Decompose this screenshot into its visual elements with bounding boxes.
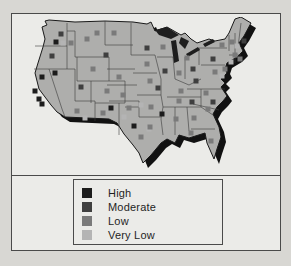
state-marker-low <box>189 131 194 136</box>
legend-label-very-low: Very Low <box>108 230 155 241</box>
state-marker-low <box>209 139 214 144</box>
state-marker-low <box>148 79 153 84</box>
state-marker-very_low <box>235 44 240 49</box>
legend-swatch-low <box>82 216 92 226</box>
state-marker-very_low <box>139 103 144 108</box>
state-marker-very_low <box>83 116 88 121</box>
state-marker-very_low <box>220 74 225 79</box>
state-marker-high <box>132 124 137 129</box>
state-marker-moderate <box>211 57 216 62</box>
state-marker-high <box>40 75 45 80</box>
state-marker-moderate <box>104 53 109 58</box>
legend-swatch-high <box>82 188 92 198</box>
legend-label-low: Low <box>108 216 129 227</box>
legend-section: High Moderate Low Very Low <box>12 176 280 250</box>
state-marker-low <box>206 107 211 112</box>
state-marker-high <box>33 89 38 94</box>
state-marker-low <box>223 67 228 72</box>
state-marker-low <box>213 70 218 75</box>
state-marker-very_low <box>229 60 234 65</box>
state-marker-high <box>109 106 114 111</box>
state-marker-low <box>148 125 153 130</box>
state-marker-low <box>85 37 90 42</box>
state-marker-low <box>91 67 96 72</box>
us-map-outline <box>35 17 251 163</box>
state-marker-low <box>69 41 74 46</box>
state-marker-moderate <box>50 54 55 59</box>
state-marker-moderate <box>163 69 168 74</box>
state-marker-low <box>161 45 166 50</box>
legend-label-high: High <box>108 188 131 199</box>
state-marker-low <box>145 62 150 67</box>
state-marker-moderate <box>211 100 216 105</box>
map-section <box>12 14 280 176</box>
state-marker-low <box>101 111 106 116</box>
state-marker-moderate <box>59 32 64 37</box>
legend-label-moderate: Moderate <box>108 202 156 213</box>
state-marker-low <box>105 89 110 94</box>
state-marker-moderate <box>145 46 150 51</box>
state-marker-low <box>117 75 122 80</box>
state-marker-low <box>179 89 184 94</box>
state-marker-low <box>139 135 144 140</box>
state-marker-low <box>127 106 132 111</box>
figure-panel: High Moderate Low Very Low <box>11 13 281 251</box>
state-marker-low <box>230 40 235 45</box>
state-marker-low <box>95 31 100 36</box>
legend-row-very-low: Very Low <box>74 228 155 242</box>
state-marker-low <box>238 57 243 62</box>
us-map-svg <box>29 17 269 173</box>
legend-row-low: Low <box>74 214 129 228</box>
state-marker-low <box>177 71 182 76</box>
legend-swatch-moderate <box>82 202 92 212</box>
legend-swatch-very-low <box>82 230 92 240</box>
state-marker-high <box>37 97 42 102</box>
state-marker-very_low <box>122 115 127 120</box>
legend-row-high: High <box>74 186 131 200</box>
state-marker-moderate <box>242 39 247 44</box>
legend-row-moderate: Moderate <box>74 200 156 214</box>
state-marker-low <box>220 43 225 48</box>
state-marker-moderate <box>156 86 161 91</box>
state-marker-low <box>185 56 190 61</box>
state-marker-high <box>54 40 59 45</box>
legend-box: High Moderate Low Very Low <box>73 179 223 245</box>
state-marker-very_low <box>61 41 66 46</box>
state-marker-low <box>174 117 179 122</box>
state-marker-low <box>75 109 80 114</box>
state-marker-high <box>53 71 58 76</box>
state-marker-moderate <box>191 67 196 72</box>
state-marker-high <box>160 112 165 117</box>
state-marker-low <box>192 116 197 121</box>
state-marker-low <box>204 91 209 96</box>
state-marker-moderate <box>79 85 84 90</box>
state-marker-moderate <box>190 100 195 105</box>
state-marker-low <box>233 53 238 58</box>
state-marker-low <box>121 93 126 98</box>
state-marker-moderate <box>194 79 199 84</box>
state-marker-high <box>40 102 45 107</box>
state-marker-low <box>112 31 117 36</box>
scanned-figure-background: High Moderate Low Very Low <box>0 0 291 266</box>
state-marker-low <box>177 99 182 104</box>
state-marker-low <box>149 105 154 110</box>
